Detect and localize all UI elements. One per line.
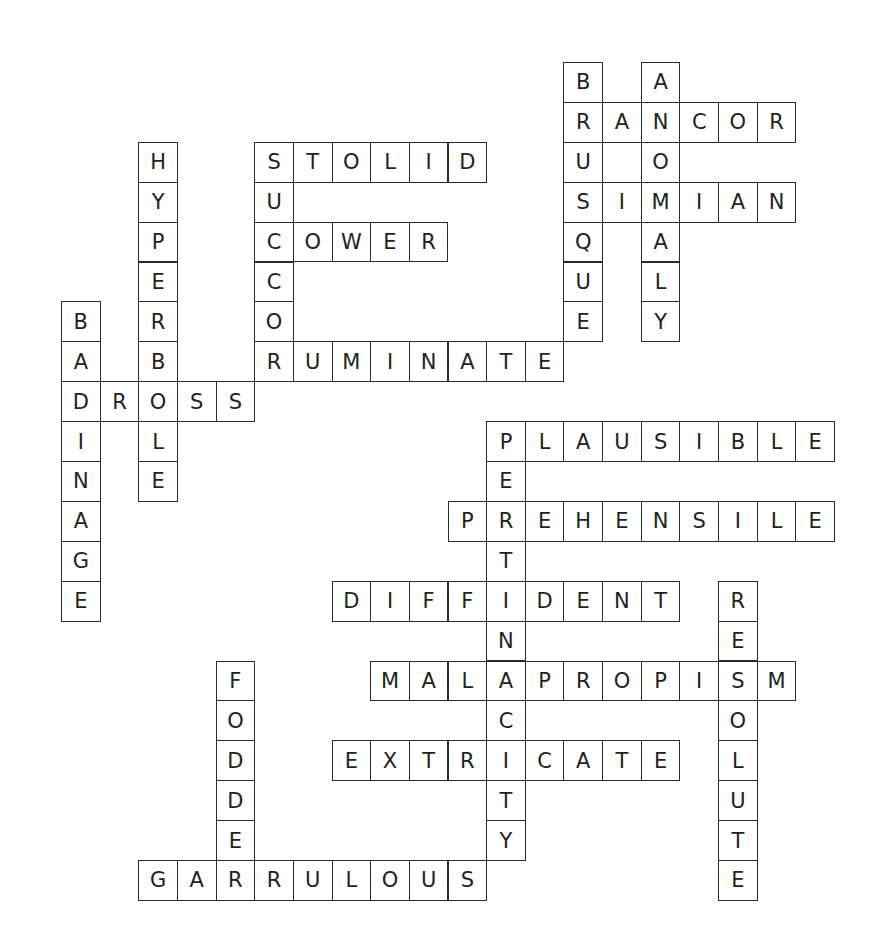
grid-cell[interactable]: T <box>486 780 526 821</box>
grid-cell[interactable]: I <box>602 182 642 223</box>
grid-cell[interactable]: U <box>602 421 642 462</box>
grid-cell[interactable]: T <box>293 142 333 183</box>
grid-cell[interactable]: A <box>486 661 526 702</box>
grid-cell[interactable]: N <box>641 102 681 143</box>
grid-cell[interactable]: I <box>486 740 526 781</box>
grid-cell[interactable]: R <box>254 341 294 382</box>
grid-cell[interactable]: L <box>448 661 488 702</box>
grid-cell[interactable]: F <box>448 581 488 622</box>
grid-cell[interactable]: R <box>718 581 758 622</box>
grid-cell[interactable]: R <box>563 102 603 143</box>
grid-cell[interactable]: A <box>61 501 101 542</box>
grid-cell[interactable]: L <box>332 860 372 901</box>
grid-cell[interactable]: F <box>409 581 449 622</box>
grid-cell[interactable]: E <box>563 581 603 622</box>
grid-cell[interactable]: R <box>254 860 294 901</box>
grid-cell[interactable]: E <box>486 461 526 502</box>
grid-cell[interactable]: L <box>138 421 178 462</box>
grid-cell[interactable]: O <box>718 700 758 741</box>
grid-cell[interactable]: I <box>718 501 758 542</box>
grid-cell[interactable]: P <box>486 421 526 462</box>
grid-cell[interactable]: U <box>254 182 294 223</box>
grid-cell[interactable]: P <box>641 661 681 702</box>
grid-cell[interactable]: E <box>602 501 642 542</box>
grid-cell[interactable]: Y <box>486 820 526 861</box>
grid-cell[interactable]: D <box>332 581 372 622</box>
grid-cell[interactable]: T <box>641 581 681 622</box>
grid-cell[interactable]: S <box>448 860 488 901</box>
grid-cell[interactable]: M <box>332 341 372 382</box>
grid-cell[interactable]: O <box>332 142 372 183</box>
grid-cell[interactable]: A <box>563 421 603 462</box>
grid-cell[interactable]: B <box>563 62 603 103</box>
grid-cell[interactable]: E <box>216 820 256 861</box>
grid-cell[interactable]: L <box>757 501 797 542</box>
grid-cell[interactable]: I <box>679 661 719 702</box>
grid-cell[interactable]: O <box>641 142 681 183</box>
grid-cell[interactable]: W <box>332 222 372 263</box>
grid-cell[interactable]: D <box>525 581 565 622</box>
grid-cell[interactable]: R <box>486 501 526 542</box>
grid-cell[interactable]: N <box>602 581 642 622</box>
grid-cell[interactable]: O <box>602 661 642 702</box>
grid-cell[interactable]: C <box>525 740 565 781</box>
grid-cell[interactable]: D <box>216 780 256 821</box>
grid-cell[interactable]: A <box>602 102 642 143</box>
grid-cell[interactable]: E <box>718 860 758 901</box>
grid-cell[interactable]: L <box>370 142 410 183</box>
grid-cell[interactable]: I <box>486 581 526 622</box>
grid-cell[interactable]: H <box>138 142 178 183</box>
grid-cell[interactable]: N <box>61 461 101 502</box>
grid-cell[interactable]: S <box>718 661 758 702</box>
grid-cell[interactable]: E <box>138 262 178 303</box>
grid-cell[interactable]: T <box>486 341 526 382</box>
grid-cell[interactable]: C <box>486 700 526 741</box>
grid-cell[interactable]: U <box>409 860 449 901</box>
grid-cell[interactable]: T <box>486 541 526 582</box>
grid-cell[interactable]: E <box>525 341 565 382</box>
grid-cell[interactable]: Y <box>641 301 681 342</box>
grid-cell[interactable]: N <box>641 501 681 542</box>
grid-cell[interactable]: A <box>563 740 603 781</box>
grid-cell[interactable]: N <box>757 182 797 223</box>
grid-cell[interactable]: E <box>795 421 835 462</box>
grid-cell[interactable]: R <box>409 222 449 263</box>
grid-cell[interactable]: U <box>563 142 603 183</box>
grid-cell[interactable]: E <box>61 581 101 622</box>
grid-cell[interactable]: B <box>138 341 178 382</box>
grid-cell[interactable]: U <box>293 341 333 382</box>
grid-cell[interactable]: R <box>563 661 603 702</box>
grid-cell[interactable]: O <box>216 700 256 741</box>
grid-cell[interactable]: U <box>718 780 758 821</box>
grid-cell[interactable]: O <box>370 860 410 901</box>
grid-cell[interactable]: P <box>525 661 565 702</box>
grid-cell[interactable]: R <box>757 102 797 143</box>
grid-cell[interactable]: B <box>61 301 101 342</box>
grid-cell[interactable]: C <box>679 102 719 143</box>
grid-cell[interactable]: Y <box>138 182 178 223</box>
grid-cell[interactable]: O <box>254 301 294 342</box>
grid-cell[interactable]: E <box>332 740 372 781</box>
grid-cell[interactable]: D <box>448 142 488 183</box>
grid-cell[interactable]: U <box>563 262 603 303</box>
grid-cell[interactable]: E <box>525 501 565 542</box>
grid-cell[interactable]: M <box>757 661 797 702</box>
grid-cell[interactable]: S <box>177 381 217 422</box>
grid-cell[interactable]: S <box>641 421 681 462</box>
grid-cell[interactable]: O <box>138 381 178 422</box>
grid-cell[interactable]: E <box>563 301 603 342</box>
grid-cell[interactable]: M <box>641 182 681 223</box>
grid-cell[interactable]: U <box>293 860 333 901</box>
grid-cell[interactable]: S <box>563 182 603 223</box>
grid-cell[interactable]: R <box>100 381 140 422</box>
grid-cell[interactable]: A <box>641 62 681 103</box>
grid-cell[interactable]: S <box>216 381 256 422</box>
grid-cell[interactable]: C <box>254 262 294 303</box>
grid-cell[interactable]: I <box>409 142 449 183</box>
grid-cell[interactable]: R <box>448 740 488 781</box>
grid-cell[interactable]: I <box>679 182 719 223</box>
grid-cell[interactable]: R <box>216 860 256 901</box>
grid-cell[interactable]: S <box>679 501 719 542</box>
grid-cell[interactable]: M <box>370 661 410 702</box>
grid-cell[interactable]: E <box>795 501 835 542</box>
